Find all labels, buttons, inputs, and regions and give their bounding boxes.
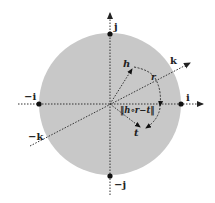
label-k: k <box>170 55 178 66</box>
point-neg-j <box>107 173 112 178</box>
label-t: t <box>134 127 139 138</box>
label-neg-i: −i <box>24 91 36 102</box>
label-neg-j: −j <box>114 179 126 190</box>
quaternion-rotation-diagram: i −i j −j k −k h r t ‖h∘r−t‖ <box>0 0 215 203</box>
label-i: i <box>186 92 190 103</box>
label-h: h <box>123 58 130 69</box>
distance-annotation: ‖h∘r−t‖ <box>120 105 155 116</box>
label-neg-k: −k <box>28 131 44 142</box>
label-j: j <box>113 21 118 32</box>
diagram-canvas: i −i j −j k −k h r t ‖h∘r−t‖ <box>0 0 215 203</box>
point-i <box>178 101 183 106</box>
point-neg-i <box>36 101 41 106</box>
point-j <box>107 31 112 36</box>
